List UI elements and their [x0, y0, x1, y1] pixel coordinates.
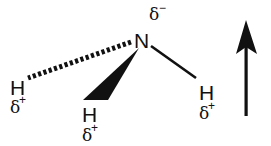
hydrogen-right-charge-sign: +: [208, 99, 215, 113]
nitrogen-charge-delta: δ: [149, 4, 159, 24]
dipole-arrow-icon: [236, 20, 257, 116]
ammonia-diagram: N δ − H δ + H δ + H δ +: [0, 0, 271, 146]
nitrogen-charge-sign: −: [159, 1, 166, 15]
nitrogen-atom: N: [134, 29, 149, 52]
plain-bond-right: [151, 46, 196, 78]
hydrogen-middle-charge-sign: +: [91, 121, 98, 135]
hydrogen-left-charge-sign: +: [19, 93, 26, 107]
